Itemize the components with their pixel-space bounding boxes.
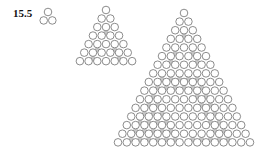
circle bbox=[98, 49, 106, 57]
circle bbox=[98, 15, 106, 23]
circle bbox=[102, 6, 110, 14]
circle bbox=[98, 32, 106, 40]
circle bbox=[220, 121, 228, 129]
circle bbox=[193, 139, 201, 147]
circle bbox=[193, 104, 201, 112]
circle bbox=[242, 130, 250, 138]
circle bbox=[202, 70, 210, 78]
circle bbox=[224, 113, 232, 121]
circle bbox=[124, 49, 132, 57]
circle bbox=[185, 18, 193, 26]
circle bbox=[180, 9, 188, 17]
circle bbox=[211, 70, 219, 78]
circle bbox=[154, 95, 162, 103]
circle bbox=[149, 104, 157, 112]
circle bbox=[193, 52, 201, 60]
circle bbox=[89, 49, 97, 57]
circle bbox=[185, 52, 193, 60]
circle bbox=[189, 61, 197, 69]
circle bbox=[215, 78, 223, 86]
triangle-large bbox=[114, 9, 254, 146]
circle bbox=[149, 139, 157, 147]
circle bbox=[176, 87, 184, 95]
circle bbox=[207, 113, 215, 121]
circle bbox=[167, 121, 175, 129]
circle bbox=[115, 32, 123, 40]
circle bbox=[202, 52, 210, 60]
circle bbox=[136, 95, 144, 103]
circle bbox=[167, 35, 175, 43]
circle bbox=[198, 61, 206, 69]
circle bbox=[202, 104, 210, 112]
circle bbox=[215, 95, 223, 103]
circle bbox=[176, 70, 184, 78]
circle bbox=[141, 139, 149, 147]
circle bbox=[40, 17, 48, 25]
circle bbox=[220, 104, 228, 112]
circle bbox=[189, 130, 197, 138]
triangle-medium bbox=[76, 6, 136, 65]
circle bbox=[44, 8, 52, 16]
circle bbox=[224, 95, 232, 103]
circle bbox=[198, 44, 206, 52]
circle bbox=[171, 61, 179, 69]
circle bbox=[237, 139, 245, 147]
circle bbox=[215, 113, 223, 121]
circle bbox=[141, 87, 149, 95]
circle bbox=[154, 61, 162, 69]
circle bbox=[189, 26, 197, 34]
circle bbox=[233, 130, 241, 138]
circle bbox=[163, 95, 171, 103]
circle bbox=[154, 113, 162, 121]
circle bbox=[229, 104, 237, 112]
circle bbox=[180, 95, 188, 103]
circle bbox=[237, 121, 245, 129]
circle bbox=[127, 113, 135, 121]
circle bbox=[107, 49, 115, 57]
circle bbox=[171, 44, 179, 52]
circle bbox=[189, 78, 197, 86]
circle bbox=[167, 104, 175, 112]
circle bbox=[89, 32, 97, 40]
circle bbox=[123, 121, 131, 129]
circle bbox=[167, 87, 175, 95]
circle bbox=[207, 130, 215, 138]
circle bbox=[115, 49, 123, 57]
circle bbox=[193, 87, 201, 95]
circle bbox=[154, 78, 162, 86]
circle bbox=[202, 121, 210, 129]
circle bbox=[149, 87, 157, 95]
circle bbox=[180, 130, 188, 138]
circle bbox=[193, 70, 201, 78]
circle bbox=[85, 40, 93, 48]
circle bbox=[94, 57, 102, 65]
circle bbox=[123, 139, 131, 147]
circle bbox=[220, 87, 228, 95]
circle bbox=[185, 121, 193, 129]
circle bbox=[180, 61, 188, 69]
circle bbox=[132, 139, 140, 147]
circle bbox=[185, 87, 193, 95]
circle bbox=[189, 95, 197, 103]
circle bbox=[107, 15, 115, 23]
circle bbox=[111, 23, 119, 31]
circle bbox=[198, 130, 206, 138]
circle bbox=[94, 23, 102, 31]
circle bbox=[171, 78, 179, 86]
circle bbox=[176, 139, 184, 147]
circle bbox=[158, 121, 166, 129]
circle bbox=[158, 87, 166, 95]
circle bbox=[198, 113, 206, 121]
circle bbox=[158, 70, 166, 78]
circle bbox=[176, 121, 184, 129]
circle bbox=[176, 35, 184, 43]
circle bbox=[163, 44, 171, 52]
circle bbox=[211, 87, 219, 95]
circle bbox=[127, 130, 135, 138]
circle bbox=[207, 61, 215, 69]
circle bbox=[49, 17, 57, 25]
figure-15-5: 15.5 bbox=[0, 0, 268, 156]
circle bbox=[167, 70, 175, 78]
circle bbox=[158, 52, 166, 60]
circle bbox=[120, 57, 128, 65]
